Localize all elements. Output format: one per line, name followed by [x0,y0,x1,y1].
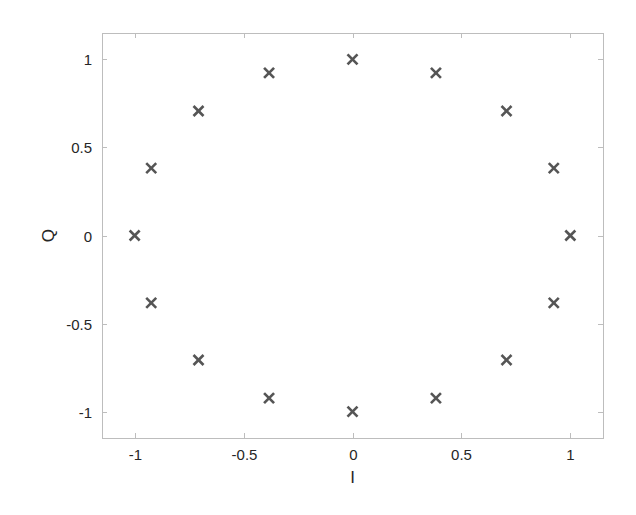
y-tick-label: 0.5 [71,139,92,156]
x-tick-label: -0.5 [232,446,258,463]
y-tick-label: -1 [79,404,92,421]
x-tick-label: 0 [349,446,357,463]
y-tick-label: 1 [84,51,92,68]
y-tick-label: -0.5 [66,316,92,333]
y-tick-labels: -1-0.500.51 [66,51,92,421]
x-tick-labels: -1-0.500.51 [129,446,575,463]
x-axis-label: I [350,468,355,487]
x-tick-label: 0.5 [451,446,472,463]
y-tick-label: 0 [84,228,92,245]
x-tick-label: -1 [129,446,142,463]
x-tick-label: 1 [566,446,574,463]
constellation-chart: -1-0.500.51 -1-0.500.51 I Q [0,0,636,515]
plot-area [102,33,603,438]
y-axis-label: Q [39,229,58,242]
